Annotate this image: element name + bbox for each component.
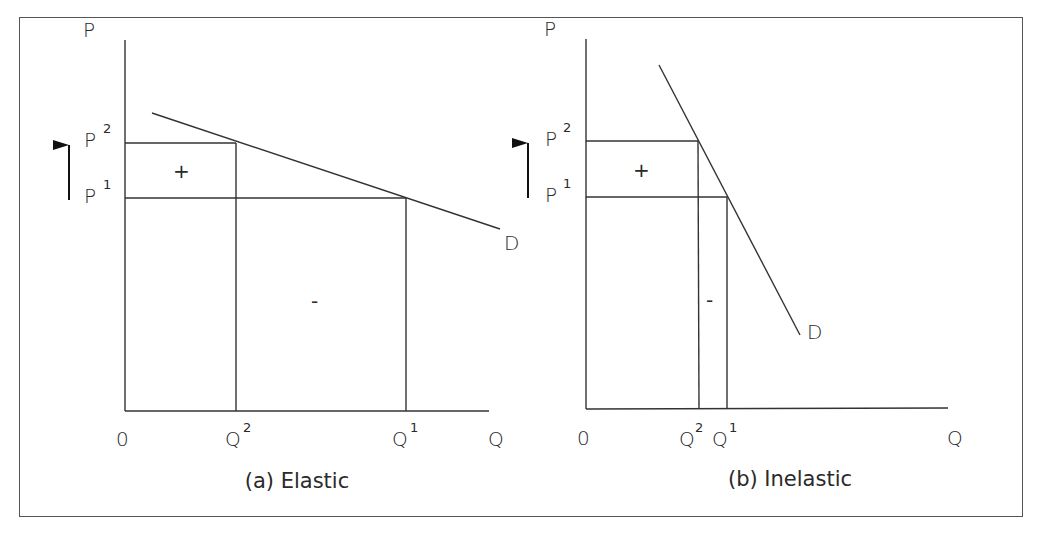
quantity-q2-label: Q [225,427,241,451]
price-p2-label: P [545,127,557,151]
price-p2-sup: 2 [103,121,111,136]
demand-curve [659,65,800,335]
panel-caption: (b) Inelastic [728,467,852,491]
y-axis-label: P [83,18,95,42]
x-axis-label: Q [488,427,504,451]
panel-caption: (a) Elastic [245,469,349,493]
quantity-q1-sup: 1 [410,420,418,435]
quantity-q1-label: Q [392,427,408,451]
quantity-q2-label: Q [679,427,695,451]
price-p1-sup: 1 [563,176,571,191]
quantity-q2-sup: 2 [695,420,703,435]
quantity-q2-line [698,141,699,409]
demand-label: D [807,320,822,344]
origin-label: 0 [577,426,590,450]
revenue-gain-sign: + [633,158,650,182]
price-p2-label: P [84,128,96,152]
quantity-q1-sup: 1 [729,420,737,435]
price-p1-sup: 1 [103,177,111,192]
demand-curve [152,113,500,229]
revenue-gain-sign: + [173,159,190,183]
x-axis-label: Q [947,426,963,450]
price-p1-label: P [84,184,96,208]
price-p1-label: P [545,183,557,207]
panel-inelastic: P P 2 P 1 + - D 0 Q 2 Q 1 Q (b) Inelasti… [528,17,963,491]
revenue-loss-sign: - [311,289,318,313]
demand-label: D [504,231,519,255]
y-axis-label: P [544,17,556,41]
quantity-q2-sup: 2 [243,420,251,435]
panel-elastic: P P 2 P 1 + - D 0 Q 2 Q 1 Q (a) Elastic [69,18,519,493]
price-p2-sup: 2 [563,120,571,135]
revenue-loss-sign: - [706,288,713,312]
origin-label: 0 [116,427,129,451]
x-axis [586,408,948,409]
quantity-q1-label: Q [712,427,728,451]
elasticity-diagram: P P 2 P 1 + - D 0 Q 2 Q 1 Q (a) Elastic … [0,0,1041,533]
